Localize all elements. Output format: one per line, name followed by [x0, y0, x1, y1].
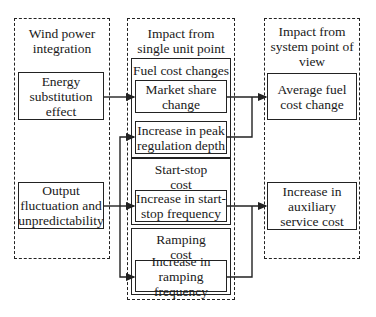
box-average-fuel-cost-change: Average fuel cost change [267, 73, 357, 120]
box-market-share-change: Market share change [135, 80, 227, 113]
box-auxiliary-service-cost: Increase in auxiliary service cost [267, 182, 357, 230]
group-title-fuel-cost: Fuel cost changes [132, 63, 230, 78]
box-output-fluctuation: Output fluctuation and unpredictability [18, 182, 104, 229]
column-title-right: Impact from system point of view [268, 24, 356, 69]
box-peak-regulation-depth: Increase in peak regulation depth [135, 121, 227, 154]
column-title-left: Wind power integration [20, 26, 104, 56]
box-start-stop-frequency: Increase in start-stop frequency [135, 190, 227, 222]
box-energy-substitution-effect: Energy substitution effect [18, 72, 104, 120]
box-ramping-frequency: Increase in ramping frequency [135, 260, 227, 292]
